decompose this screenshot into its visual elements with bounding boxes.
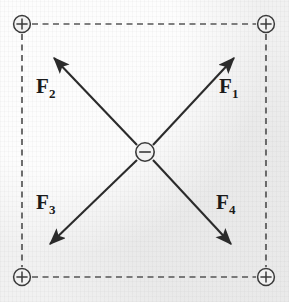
charge-center <box>136 143 154 161</box>
force-label-f1-subscript: 1 <box>232 86 239 101</box>
force-label-f4: F4 <box>216 192 236 216</box>
charge-bottom-right <box>258 269 275 286</box>
force-label-f3-symbol: F <box>36 190 49 214</box>
force-label-f2-subscript: 2 <box>49 86 56 101</box>
charge-top-left <box>14 16 31 33</box>
force-label-f3-subscript: 3 <box>49 202 56 217</box>
charge-bottom-left <box>14 269 31 286</box>
diagram-canvas <box>0 0 289 302</box>
force-vector-f2 <box>54 58 137 145</box>
charge-top-right <box>258 16 275 33</box>
force-label-f1-symbol: F <box>219 74 232 98</box>
force-label-f4-subscript: 4 <box>229 202 236 217</box>
force-label-f3: F3 <box>36 192 56 216</box>
force-vector-f3 <box>50 160 137 244</box>
force-diagram-figure: F1 F2 F3 F4 <box>0 0 289 302</box>
force-label-f1: F1 <box>219 76 239 100</box>
force-vector-f1 <box>153 58 234 145</box>
force-label-f2: F2 <box>36 76 56 100</box>
force-label-f4-symbol: F <box>216 190 229 214</box>
force-label-f2-symbol: F <box>36 74 49 98</box>
